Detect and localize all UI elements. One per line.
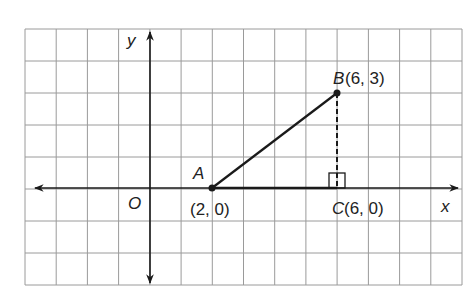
- point-b: [334, 90, 341, 97]
- grid: [25, 29, 462, 285]
- point-b-coords: (6, 3): [345, 69, 385, 88]
- point-c-coords: (6, 0): [344, 199, 384, 218]
- point-a-name: A: [192, 164, 204, 183]
- origin-label: O: [128, 194, 141, 213]
- point-b-name: B: [333, 69, 344, 88]
- point-a: [209, 185, 216, 192]
- x-axis-label: x: [440, 197, 450, 216]
- coordinate-plane: y x O A (2, 0) B (6, 3) C (6, 0): [0, 0, 473, 291]
- y-axis-label: y: [126, 31, 137, 50]
- point-a-coords: (2, 0): [190, 200, 230, 219]
